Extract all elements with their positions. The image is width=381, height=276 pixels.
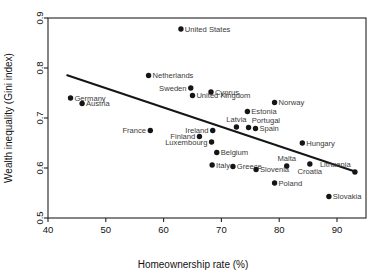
data-point-label: Hungary [306,139,335,148]
data-point-marker [307,161,312,166]
data-point-label: Sweden [159,84,186,93]
plot-frame [48,18,366,218]
data-point-label: Luxembourg [165,138,207,147]
data-point-marker [253,167,258,172]
data-point-marker [352,169,357,174]
y-tick-label: 0.7 [34,111,45,124]
data-point-label: France [122,126,146,135]
y-axis-ticks: 0.50.60.70.80.9 [34,11,48,224]
x-tick-label: 80 [274,224,285,235]
chart-canvas: 405060708090 0.50.60.70.80.9 United Stat… [0,0,381,276]
y-axis-title: Wealth inequality (Gini index) [3,53,14,183]
data-point-marker [68,95,73,100]
data-point-label: Spain [259,124,278,133]
data-point-label: Poland [278,179,302,188]
data-point-label: United Kingdom [196,91,250,100]
data-point-label: Austria [86,99,110,108]
x-tick-label: 90 [332,224,343,235]
x-axis-ticks: 405060708090 [43,218,343,235]
y-tick-label: 0.6 [34,161,45,174]
y-tick-label: 0.5 [34,211,45,224]
data-point-label: Belgium [221,148,248,157]
data-point-marker [148,128,153,133]
data-point-label: Slovakia [333,192,362,201]
data-point-marker [209,139,214,144]
x-axis-title: Homeownership rate (%) [138,259,249,270]
data-point-marker [188,85,193,90]
data-point-label: Italy [216,161,230,170]
data-point-marker [246,125,251,130]
x-tick-label: 70 [216,224,227,235]
data-point-marker [209,162,214,167]
data-point-label: Norway [278,98,304,107]
data-point-label: Slovenia [260,165,290,174]
data-points-group: United StatesNetherlandsSwedenCyprusUnit… [68,25,362,202]
data-point-label: United States [185,25,231,34]
data-point-marker [190,93,195,98]
data-point-marker [178,26,183,31]
x-tick-label: 50 [101,224,112,235]
data-point-marker [245,109,250,114]
x-tick-label: 40 [43,224,54,235]
data-point-marker [272,180,277,185]
data-point-marker [210,128,215,133]
data-point-label: Lithuania [320,160,352,169]
y-tick-label: 0.9 [34,11,45,24]
data-point-marker [79,101,84,106]
data-point-marker [146,73,151,78]
data-point-marker [230,164,235,169]
data-point-marker [234,124,239,129]
scatter-chart-figure: 405060708090 0.50.60.70.80.9 United Stat… [0,0,381,276]
data-point-marker [326,194,331,199]
data-point-marker [272,100,277,105]
data-point-marker [300,140,305,145]
data-point-label: Latvia [226,115,247,124]
data-point-marker [253,126,258,131]
data-point-label: Netherlands [152,71,193,80]
x-tick-label: 60 [158,224,169,235]
y-tick-label: 0.8 [34,61,45,74]
data-point-label: Malta [277,154,296,163]
data-point-marker [214,150,219,155]
